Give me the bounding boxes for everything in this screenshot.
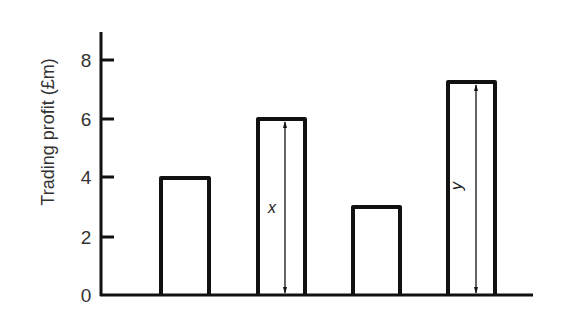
x-annotation-label: x xyxy=(267,199,277,216)
bar-1 xyxy=(161,178,209,295)
y-ticks xyxy=(101,60,114,237)
y-tick-labels: 0 2 4 6 8 xyxy=(81,50,92,306)
tick-label-8: 8 xyxy=(81,50,92,71)
tick-label-6: 6 xyxy=(81,109,92,130)
bar-3 xyxy=(353,207,400,295)
tick-label-4: 4 xyxy=(81,167,92,188)
y-annotation-label: y xyxy=(448,181,465,191)
tick-label-0: 0 xyxy=(81,285,92,306)
tick-label-2: 2 xyxy=(81,227,92,248)
bar-chart: 0 2 4 6 8 Trading profit (£m) x y xyxy=(0,0,566,320)
y-axis-title: Trading profit (£m) xyxy=(38,58,58,205)
bar-2 xyxy=(258,119,305,295)
